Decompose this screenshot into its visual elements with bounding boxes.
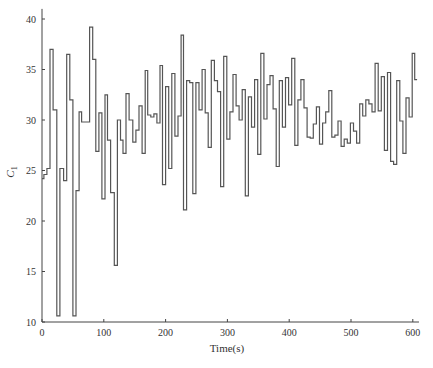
x-tick-label: 500	[344, 327, 359, 338]
y-tick-label: 20	[26, 216, 36, 227]
x-tick-label: 300	[220, 327, 235, 338]
y-tick-label: 10	[26, 317, 36, 328]
y-tick-label: 40	[26, 14, 36, 25]
step-line-chart: 010020030040050060010152025303540 Time(s…	[0, 0, 433, 368]
y-axis-label: C1	[4, 166, 19, 177]
plot-area	[42, 27, 417, 316]
y-tick-label: 25	[26, 165, 36, 176]
x-tick-label: 0	[40, 327, 45, 338]
series-line-c1	[42, 27, 417, 316]
x-tick-label: 400	[282, 327, 297, 338]
y-tick-label: 35	[26, 64, 36, 75]
x-tick-label: 600	[405, 327, 420, 338]
y-tick-label: 15	[26, 266, 36, 277]
y-axis-label-sub: 1	[10, 166, 19, 170]
x-axis-label: Time(s)	[210, 342, 245, 355]
y-tick-label: 30	[26, 115, 36, 126]
x-tick-label: 100	[96, 327, 111, 338]
x-tick-label: 200	[158, 327, 173, 338]
